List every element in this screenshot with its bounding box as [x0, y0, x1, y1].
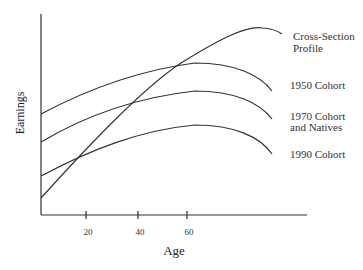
- x-axis-label: Age: [163, 243, 185, 259]
- line-1950-cohort: [41, 63, 272, 114]
- tick-label-20: 20: [84, 227, 93, 237]
- label-cross-section-2: Profile: [293, 43, 323, 54]
- axes: [41, 14, 307, 219]
- tick-label-60: 60: [185, 227, 194, 237]
- line-1990-cohort: [41, 125, 272, 176]
- tick-label-40: 40: [136, 227, 145, 237]
- label-1950-cohort: 1950 Cohort: [290, 80, 345, 91]
- label-1970-cohort-2: and Natives: [290, 122, 342, 133]
- line-cross-section: [41, 28, 282, 198]
- label-1990-cohort: 1990 Cohort: [290, 149, 345, 160]
- label-cross-section-1: Cross-Section: [293, 31, 355, 42]
- series-lines: [41, 28, 282, 198]
- line-1970-cohort: [41, 91, 272, 142]
- y-axis-label: Earnings: [13, 92, 28, 135]
